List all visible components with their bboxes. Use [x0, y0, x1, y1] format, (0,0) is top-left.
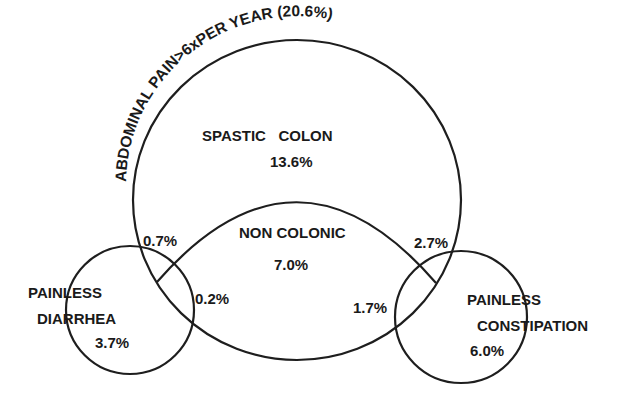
painless-diarrhea-value: 3.7%	[95, 334, 129, 351]
painless-constipation-label-line2: CONSTIPATION	[477, 317, 588, 334]
painless-diarrhea-label-line2: DIARRHEA	[37, 310, 116, 327]
spastic-colon-value: 13.6%	[270, 153, 313, 170]
painless-diarrhea-label-line1: PAINLESS	[28, 284, 102, 301]
painless-constipation-value: 6.0%	[470, 342, 504, 359]
non-colonic-label: NON COLONIC	[239, 224, 346, 241]
venn-diagram: ABDOMINAL PAIN>6xPER YEAR (20.6%) SPASTI…	[0, 0, 639, 407]
non-colonic-value: 7.0%	[274, 256, 308, 273]
abdominal-pain-circle	[133, 40, 461, 360]
spastic-colon-label: SPASTIC COLON	[202, 127, 333, 144]
overlap-diarrhea-spastic-value: 0.7%	[143, 232, 177, 249]
painless-constipation-label-line1: PAINLESS	[467, 291, 541, 308]
overlap-constipation-spastic-value: 2.7%	[414, 234, 448, 251]
overlap-constipation-noncolonic-value: 1.7%	[353, 299, 387, 316]
overlap-diarrhea-noncolonic-value: 0.2%	[195, 290, 229, 307]
